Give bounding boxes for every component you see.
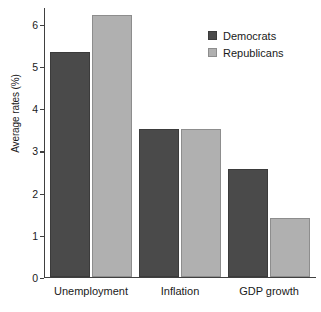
legend-item-republicans: Republicans — [208, 45, 284, 60]
chart-legend: Democrats Republicans — [208, 28, 284, 62]
y-tick-label: 6 — [32, 19, 38, 31]
legend-item-democrats: Democrats — [208, 28, 284, 43]
y-tick-mark — [40, 151, 44, 152]
x-axis-label-gdp-growth: GDP growth — [239, 285, 299, 297]
y-tick-mark — [40, 278, 44, 279]
y-axis-title: Average rates (%) — [10, 59, 21, 169]
x-axis-label-unemployment: Unemployment — [54, 285, 128, 297]
x-axis-label-inflation: Inflation — [161, 285, 200, 297]
y-tick-mark — [40, 109, 44, 110]
bar-chart: Average rates (%) 0123456 UnemploymentIn… — [0, 0, 321, 312]
y-tick-mark — [40, 194, 44, 195]
y-tick-mark — [40, 25, 44, 26]
y-tick-mark — [40, 67, 44, 68]
bar-inflation-democrats — [139, 129, 179, 278]
y-tick-label: 2 — [32, 188, 38, 200]
y-tick-label: 0 — [32, 272, 38, 284]
bar-inflation-republicans — [181, 129, 221, 278]
y-tick-label: 5 — [32, 61, 38, 73]
bar-unemployment-republicans — [92, 15, 132, 277]
bar-unemployment-democrats — [50, 52, 90, 277]
bar-gdp-growth-democrats — [228, 169, 268, 277]
legend-label-republicans: Republicans — [223, 47, 284, 59]
y-axis-line — [44, 8, 45, 278]
legend-swatch-republicans-icon — [208, 48, 217, 57]
bar-gdp-growth-republicans — [270, 218, 310, 277]
y-tick-mark — [40, 236, 44, 237]
y-tick-label: 1 — [32, 230, 38, 242]
legend-label-democrats: Democrats — [223, 30, 276, 42]
x-axis-line — [44, 277, 316, 278]
y-tick-label: 3 — [32, 145, 38, 157]
y-tick-label: 4 — [32, 103, 38, 115]
legend-swatch-democrats-icon — [208, 31, 217, 40]
